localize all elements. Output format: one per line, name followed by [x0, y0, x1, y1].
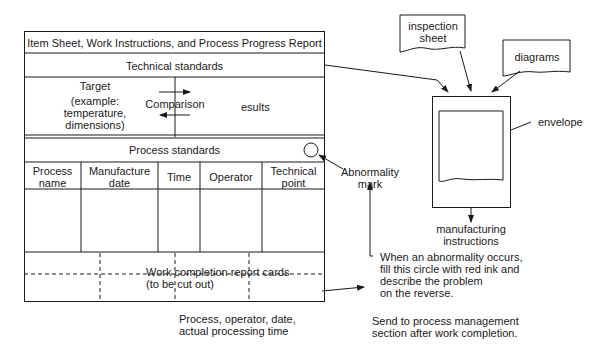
inspection-sheet-label: inspectionsheet	[402, 20, 464, 44]
column-header-time: Time	[158, 171, 200, 183]
target-example-1: (example:	[60, 95, 130, 107]
target-example-3: dimensions)	[60, 119, 130, 131]
cards-label: Work completion report cards(to be cut o…	[146, 266, 289, 290]
results-label: esults	[241, 101, 270, 113]
technical-standards-header: Technical standards	[24, 60, 325, 72]
process-standards-header: Process standards	[24, 144, 325, 156]
send-note: Send to process managementsection after …	[372, 315, 519, 339]
column-header-manufacture-date: Manufacturedate	[81, 165, 158, 189]
abnormality-mark-label: Abnormalitymark	[340, 166, 400, 190]
envelope-label: envelope	[538, 116, 583, 128]
sheet-title: Item Sheet, Work Instructions, and Proce…	[24, 37, 325, 49]
comparison-label: Comparison	[145, 98, 205, 110]
abnormality-note: When an abnormality occurs, fill this ci…	[380, 251, 522, 299]
manufacturing-instructions-label: manufacturinginstructions	[431, 223, 511, 247]
card-fields: Process, operator, date,actual processin…	[179, 313, 296, 337]
diagrams-label: diagrams	[505, 51, 569, 63]
target-label: Target	[60, 80, 130, 92]
column-header-process-name: Processname	[24, 165, 81, 189]
column-header-technical-point: Technicalpoint	[262, 165, 325, 189]
column-header-operator: Operator	[200, 171, 262, 183]
target-example-2: temperature,	[60, 107, 130, 119]
